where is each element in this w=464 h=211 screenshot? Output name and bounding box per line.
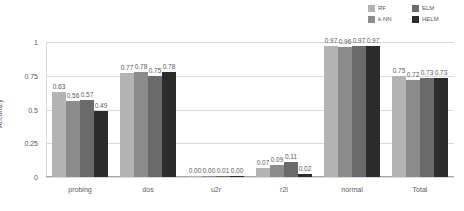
bar-k-nn-normal[interactable]: 0.96 [338, 47, 352, 177]
bar-cell: 0.56 [66, 42, 80, 177]
bar-elm-total[interactable]: 0.73 [420, 78, 434, 177]
bar-cell: 0.02 [298, 42, 312, 177]
legend-swatch-icon [368, 16, 375, 23]
y-axis-title: Accuracy [0, 99, 3, 128]
bar-elm-probing[interactable]: 0.57 [80, 100, 94, 177]
bar-chart: RFELMk-NNHELM Accuracy 00.250.50.751 0.6… [0, 0, 464, 211]
y-axis-tick-label: 0.25 [24, 140, 38, 147]
y-axis: Accuracy 00.250.50.751 [0, 42, 42, 177]
bar-value-label: 0.49 [95, 102, 108, 110]
x-axis-tick-label: normal [318, 186, 386, 193]
legend-swatch-icon [412, 5, 419, 12]
bar-group-r2l: 0.070.090.110.02r2l [250, 42, 318, 177]
y-axis-tick-label: 0.75 [24, 72, 38, 79]
bar-value-label: 0.01 [217, 167, 230, 175]
bar-cell: 0.11 [284, 42, 298, 177]
bar-cell: 0.49 [94, 42, 108, 177]
bar-rf-total[interactable]: 0.75 [392, 76, 406, 177]
chart-legend: RFELMk-NNHELM [368, 3, 462, 24]
bar-helm-r2l[interactable]: 0.02 [298, 174, 312, 177]
bar-value-label: 0.00 [189, 167, 202, 175]
bar-rf-normal[interactable]: 0.97 [324, 46, 338, 177]
bar-value-label: 0.09 [271, 156, 284, 164]
legend-item-rf[interactable]: RF [368, 3, 412, 13]
bar-cell: 0.78 [134, 42, 148, 177]
bar-value-label: 0.75 [393, 67, 406, 75]
bar-rf-u2r[interactable]: 0.00 [188, 176, 202, 177]
bar-value-label: 0.97 [353, 37, 366, 45]
bars: 0.000.000.010.00 [182, 42, 250, 177]
bar-elm-dos[interactable]: 0.75 [148, 76, 162, 177]
y-axis-tick-label: 0.5 [28, 106, 38, 113]
bar-group-normal: 0.970.960.970.97normal [318, 42, 386, 177]
bar-cell: 0.09 [270, 42, 284, 177]
bar-cell: 0.75 [392, 42, 406, 177]
bar-helm-normal[interactable]: 0.97 [366, 46, 380, 177]
bar-cell: 0.73 [434, 42, 448, 177]
bar-value-label: 0.11 [285, 153, 297, 161]
bars: 0.750.720.730.73 [386, 42, 454, 177]
legend-item-helm[interactable]: HELM [412, 14, 462, 24]
bar-helm-total[interactable]: 0.73 [434, 78, 448, 177]
bar-value-label: 0.56 [67, 92, 80, 100]
bar-helm-probing[interactable]: 0.49 [94, 111, 108, 177]
bar-value-label: 0.96 [339, 38, 352, 46]
bar-rf-r2l[interactable]: 0.07 [256, 168, 270, 177]
bar-group-u2r: 0.000.000.010.00u2r [182, 42, 250, 177]
legend-swatch-icon [412, 16, 419, 23]
bar-cell: 0.63 [52, 42, 66, 177]
bar-value-label: 0.73 [435, 69, 448, 77]
bar-cell: 0.07 [256, 42, 270, 177]
bar-cell: 0.75 [148, 42, 162, 177]
bar-cell: 0.97 [366, 42, 380, 177]
bar-k-nn-total[interactable]: 0.72 [406, 80, 420, 177]
bar-groups: 0.630.560.570.49probing0.770.780.750.78d… [46, 42, 454, 177]
bar-k-nn-u2r[interactable]: 0.00 [202, 176, 216, 177]
bar-elm-r2l[interactable]: 0.11 [284, 162, 298, 177]
bar-cell: 0.57 [80, 42, 94, 177]
bar-group-total: 0.750.720.730.73Total [386, 42, 454, 177]
bar-elm-u2r[interactable]: 0.01 [216, 176, 230, 177]
legend-item-elm[interactable]: ELM [412, 3, 462, 13]
bar-cell: 0.01 [216, 42, 230, 177]
bars: 0.770.780.750.78 [114, 42, 182, 177]
bar-value-label: 0.78 [135, 63, 148, 71]
bar-value-label: 0.73 [421, 69, 434, 77]
bar-cell: 0.00 [188, 42, 202, 177]
bar-value-label: 0.00 [203, 167, 216, 175]
bar-rf-dos[interactable]: 0.77 [120, 73, 134, 177]
bar-helm-u2r[interactable]: 0.00 [230, 176, 244, 177]
legend-label: HELM [422, 16, 439, 23]
plot-area: 0.630.560.570.49probing0.770.780.750.78d… [46, 42, 454, 177]
legend-label: k-NN [378, 16, 392, 23]
bar-value-label: 0.72 [407, 71, 420, 79]
bar-value-label: 0.07 [257, 159, 270, 167]
bar-cell: 0.77 [120, 42, 134, 177]
bar-value-label: 0.63 [53, 83, 66, 91]
bar-value-label: 0.78 [163, 63, 176, 71]
bar-k-nn-dos[interactable]: 0.78 [134, 72, 148, 177]
bar-cell: 0.97 [324, 42, 338, 177]
bar-value-label: 0.97 [367, 37, 380, 45]
bars: 0.970.960.970.97 [318, 42, 386, 177]
bar-rf-probing[interactable]: 0.63 [52, 92, 66, 177]
bars: 0.070.090.110.02 [250, 42, 318, 177]
y-axis-tick-label: 1 [34, 39, 38, 46]
legend-label: ELM [422, 5, 434, 12]
bar-value-label: 0.77 [121, 64, 134, 72]
bar-cell: 0.78 [162, 42, 176, 177]
bars: 0.630.560.570.49 [46, 42, 114, 177]
x-axis-tick-label: probing [46, 186, 114, 193]
y-axis-tick-label: 0 [34, 174, 38, 181]
x-axis-tick-label: r2l [250, 186, 318, 193]
bar-value-label: 0.97 [325, 37, 338, 45]
bar-cell: 0.96 [338, 42, 352, 177]
bar-group-dos: 0.770.780.750.78dos [114, 42, 182, 177]
bar-elm-normal[interactable]: 0.97 [352, 46, 366, 177]
legend-item-k-nn[interactable]: k-NN [368, 14, 412, 24]
bar-helm-dos[interactable]: 0.78 [162, 72, 176, 177]
x-axis-tick-label: dos [114, 186, 182, 193]
bar-k-nn-probing[interactable]: 0.56 [66, 101, 80, 177]
bar-k-nn-r2l[interactable]: 0.09 [270, 165, 284, 177]
bar-value-label: 0.75 [149, 67, 162, 75]
